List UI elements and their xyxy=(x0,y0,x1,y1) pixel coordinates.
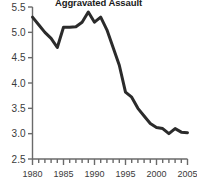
data-line xyxy=(33,12,188,134)
y-tick-label: 5.0 xyxy=(12,27,26,38)
line-chart-plot: 5.55.04.54.03.53.02.5 198019851990199520… xyxy=(0,0,197,182)
x-axis: 198019851990199520002005 xyxy=(22,159,197,179)
x-tick-label: 1995 xyxy=(115,169,135,179)
y-tick-label: 2.5 xyxy=(12,154,26,165)
y-tick-label: 4.0 xyxy=(12,78,26,89)
y-tick-label: 4.5 xyxy=(12,52,26,63)
x-tick-label: 1980 xyxy=(22,169,42,179)
x-tick-label: 2000 xyxy=(146,169,166,179)
chart-container: Aggravated Assault 5.55.04.54.03.53.02.5… xyxy=(0,0,197,182)
y-axis: 5.55.04.54.03.53.02.5 xyxy=(12,2,33,165)
y-tick-label: 3.0 xyxy=(12,128,26,139)
y-tick-label: 5.5 xyxy=(12,2,26,13)
y-tick-label: 3.5 xyxy=(12,103,26,114)
x-tick-label: 1990 xyxy=(84,169,104,179)
x-tick-label: 1985 xyxy=(53,169,73,179)
data-series-group xyxy=(33,12,188,134)
x-tick-label: 2005 xyxy=(177,169,197,179)
